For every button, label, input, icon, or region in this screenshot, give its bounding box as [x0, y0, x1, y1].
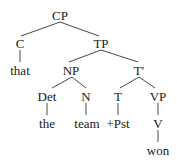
word-team: team [74, 116, 99, 131]
node-v: V [153, 116, 163, 131]
edge-tbar-t [120, 77, 139, 88]
feature-pst: +Pst [106, 116, 130, 131]
node-det: Det [38, 89, 57, 104]
syntax-tree: CP C TP that NP T' Det N T VP the team +… [0, 0, 177, 164]
word-won: won [147, 143, 170, 158]
edge-tp-tbar [101, 50, 138, 62]
node-n: N [81, 89, 91, 104]
tree-labels: CP C TP that NP T' Det N T VP the team +… [10, 8, 169, 158]
edge-cp-tp [60, 22, 99, 36]
word-that: that [10, 63, 30, 78]
edge-cp-c [21, 22, 60, 36]
edge-tp-np [69, 50, 101, 62]
edge-tbar-vp [139, 77, 155, 88]
node-tbar: T' [134, 63, 144, 78]
node-c: C [16, 36, 25, 51]
node-tp: TP [93, 36, 108, 51]
node-vp: VP [150, 89, 167, 104]
node-cp: CP [52, 8, 68, 23]
node-t: T [114, 89, 122, 104]
edge-np-det [52, 77, 72, 88]
word-the: the [39, 116, 55, 131]
node-np: NP [63, 63, 80, 78]
edge-np-n [72, 77, 86, 88]
